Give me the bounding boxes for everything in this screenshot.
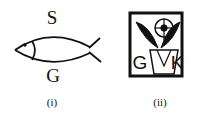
label-bottom-g: G (46, 66, 60, 85)
label-top-s: S (47, 8, 58, 27)
caption-ii: (ii) (153, 97, 166, 108)
fish-icon (15, 37, 101, 62)
label-k: K (171, 53, 184, 72)
label-g: G (133, 53, 148, 72)
caption-i: (i) (47, 97, 57, 108)
